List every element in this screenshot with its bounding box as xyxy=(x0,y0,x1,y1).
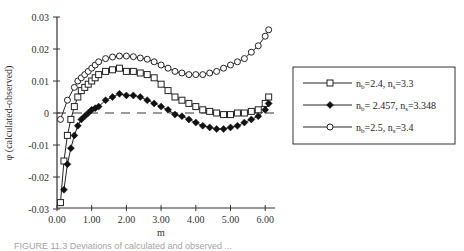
y-axis: 0.030.020.010-0.01-0.02-0.03 xyxy=(28,12,60,215)
x-tick-label: 0.00 xyxy=(48,214,66,225)
x-tick-label: 1.00 xyxy=(83,214,101,225)
x-axis: 0.001.002.003.004.005.006.00 xyxy=(48,205,275,225)
legend: nb=2.4, ns=3.3nb= 2.457, ns=3.348nb=2.5,… xyxy=(293,67,455,144)
x-tick-label: 5.00 xyxy=(222,214,240,225)
y-tick-label: -0.03 xyxy=(28,204,49,215)
y-tick-label: 0.01 xyxy=(32,76,50,87)
series-1 xyxy=(57,65,271,205)
y-tick-label: 0.02 xyxy=(32,44,50,55)
series-2 xyxy=(60,90,272,193)
x-axis-title: m xyxy=(157,227,165,238)
y-tick-label: 0.03 xyxy=(32,12,50,23)
x-tick-label: 3.00 xyxy=(152,214,170,225)
y-tick-label: 0 xyxy=(44,108,49,119)
x-tick-label: 2.00 xyxy=(118,214,136,225)
figure-caption: FIGURE 11.3 Deviations of calculated and… xyxy=(14,241,232,251)
x-tick-label: 4.00 xyxy=(187,214,205,225)
y-axis-title: φ (calculated-observed) xyxy=(3,66,15,161)
plot-area xyxy=(57,27,275,206)
y-tick-label: -0.02 xyxy=(28,172,49,183)
x-tick-label: 6.00 xyxy=(256,214,274,225)
y-tick-label: -0.01 xyxy=(28,140,49,151)
chart-figure: 0.030.020.010-0.01-0.02-0.03 0.001.002.0… xyxy=(0,0,464,251)
